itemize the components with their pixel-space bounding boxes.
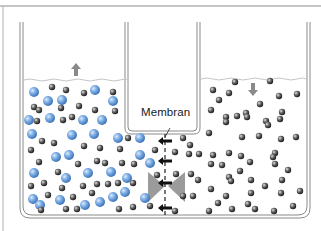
osmosis-diagram: Membran — [0, 0, 321, 231]
pressure-triangles — [148, 172, 185, 202]
water-particles-right — [172, 78, 303, 214]
level-fall-arrow-icon — [248, 83, 258, 96]
level-rise-arrow-icon — [71, 63, 81, 76]
membrane-label: Membran — [141, 106, 190, 118]
label-leader-line — [165, 128, 170, 137]
water-surface — [24, 78, 307, 81]
